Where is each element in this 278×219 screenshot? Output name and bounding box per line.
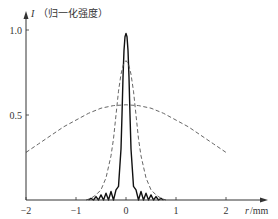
line-chart: −2−10120.51.0 I （归一化强度） r /mm bbox=[0, 0, 278, 219]
x-tick-label: 2 bbox=[224, 205, 229, 216]
tick-marks: −2−10120.51.0 bbox=[10, 25, 229, 217]
y-tick-label: 0.5 bbox=[10, 110, 23, 121]
x-axis-label: /mm bbox=[250, 205, 269, 216]
series-dashed-medium-peak bbox=[86, 61, 166, 200]
x-tick-label: 1 bbox=[174, 205, 179, 216]
chart-container: −2−10120.51.0 I （归一化强度） r /mm bbox=[0, 0, 278, 219]
y-axis-label: （归一化强度） bbox=[38, 7, 108, 19]
x-tick-label: 0 bbox=[124, 205, 129, 216]
series-solid-narrow-peak bbox=[89, 33, 164, 200]
series-dashed-broad-curve bbox=[26, 105, 226, 153]
y-axis-arrow-icon bbox=[24, 11, 29, 19]
y-tick-label: 1.0 bbox=[10, 25, 23, 36]
x-tick-label: −1 bbox=[71, 205, 82, 216]
x-tick-label: −2 bbox=[21, 205, 32, 216]
y-axis-var: I bbox=[30, 8, 35, 19]
x-axis-arrow-icon bbox=[260, 198, 268, 203]
x-axis-var: r bbox=[245, 205, 249, 216]
plot-curves bbox=[26, 33, 226, 200]
